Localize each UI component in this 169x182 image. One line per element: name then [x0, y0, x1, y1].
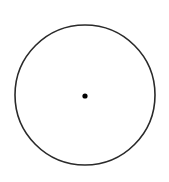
circle-diagram	[0, 0, 169, 182]
center-point	[82, 93, 87, 98]
